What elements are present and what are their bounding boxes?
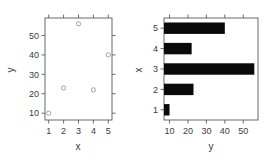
bar-y-tick-label: 4	[153, 44, 158, 54]
bar-segment	[164, 43, 192, 54]
bar-x-tick-label: 10	[165, 126, 175, 136]
scatter-point-group	[47, 22, 111, 116]
scatter-data-point	[62, 86, 66, 90]
scatter-x-tick-label: 3	[76, 126, 81, 136]
scatter-y-axis-title: y	[5, 68, 16, 73]
bar-chart-panel: 12345 1020304050 y x	[134, 0, 268, 162]
bar-y-tick-label: 2	[153, 85, 158, 95]
scatter-plot-panel: 1020304050 12345 x y	[0, 0, 134, 162]
figure-canvas: 1020304050 12345 x y 12345 1020304050 y …	[0, 0, 268, 162]
bar-group	[164, 22, 254, 115]
bar-x-tick-label: 30	[201, 126, 211, 136]
scatter-y-tick-label: 50	[29, 31, 39, 41]
scatter-x-tick-label: 1	[46, 126, 51, 136]
bar-segment	[164, 22, 225, 33]
bar-x-axis-title: y	[209, 141, 214, 152]
bar-x-tick-label: 20	[183, 126, 193, 136]
bar-segment	[164, 84, 193, 95]
scatter-data-point	[91, 88, 95, 92]
bar-x-tick-group: 1020304050	[165, 120, 249, 136]
scatter-secondary-tick-group	[49, 15, 116, 114]
scatter-data-point	[76, 22, 80, 26]
scatter-data-point	[47, 111, 51, 115]
scatter-x-tick-label: 5	[106, 126, 111, 136]
scatter-plot-frame	[45, 18, 112, 120]
bar-segment	[164, 104, 170, 115]
bar-x-tick-label: 40	[220, 126, 230, 136]
bar-y-tick-group: 12345	[153, 23, 164, 115]
bar-y-axis-title: x	[134, 68, 144, 73]
scatter-x-tick-group: 12345	[46, 120, 111, 136]
bar-y-tick-label: 3	[153, 64, 158, 74]
scatter-y-tick-label: 10	[29, 108, 39, 118]
bar-y-tick-label: 5	[153, 23, 158, 33]
bar-chart-svg: 12345 1020304050 y x	[134, 0, 268, 162]
scatter-y-tick-group: 1020304050	[29, 31, 45, 119]
bar-x-tick-label: 50	[238, 126, 248, 136]
scatter-plot-svg: 1020304050 12345 x y	[0, 0, 134, 162]
scatter-y-tick-label: 20	[29, 89, 39, 99]
scatter-x-tick-label: 4	[91, 126, 96, 136]
bar-secondary-tick-group	[170, 15, 244, 19]
scatter-x-tick-label: 2	[61, 126, 66, 136]
scatter-y-tick-label: 30	[29, 70, 39, 80]
scatter-y-tick-label: 40	[29, 50, 39, 60]
bar-y-tick-label: 1	[153, 105, 158, 115]
bar-segment	[164, 63, 254, 74]
scatter-x-axis-title: x	[76, 141, 81, 152]
scatter-data-point	[106, 53, 110, 57]
